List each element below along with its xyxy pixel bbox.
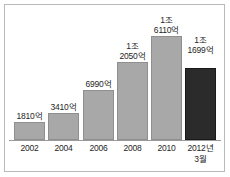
value-label-line: 1조 [175,35,226,45]
value-label-2010: 1조 6110억 [141,15,192,35]
plot-area: 1810억 2002 3410억 2004 6990억 2006 1조 2050… [0,0,230,177]
value-label-line: 3410억 [38,102,89,112]
tick-label-line: 3월 [180,154,221,165]
bar-2006 [83,90,114,140]
x-axis-line [9,140,221,141]
bar-2008 [117,62,148,140]
tick-label-line: 2012년 [180,143,221,154]
bar-2002 [14,122,45,140]
bar-chart: 1810억 2002 3410억 2004 6990억 2006 1조 2050… [0,0,230,177]
tick-label-2012-03: 2012년 3월 [180,143,221,164]
value-label-line: 6110억 [141,25,192,35]
bar-2004 [48,113,79,140]
value-label-line: 1조 [141,15,192,25]
value-label-line: 1699억 [175,45,226,55]
value-label-2004: 3410억 [38,102,89,112]
value-label-2012-03: 1조 1699억 [175,35,226,55]
bar-2012-03 [185,68,216,140]
